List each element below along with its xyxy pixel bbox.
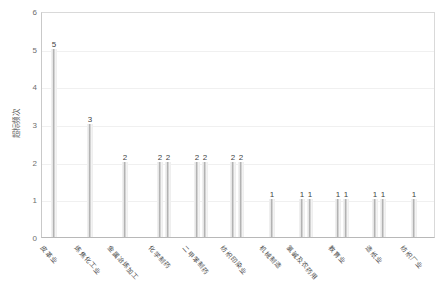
x-axis-label: 纺织厂业 bbox=[399, 243, 426, 271]
x-axis-label: 二甲苯制药 bbox=[181, 243, 213, 276]
x-axis-label: 氯碱及农药用 bbox=[285, 243, 321, 282]
x-axis-label: 皮革业 bbox=[39, 243, 61, 266]
bar-chart: 超标频次 0123456 53222222211111111 皮革业炼焦化工业金… bbox=[0, 0, 439, 296]
x-axis-label: 纺织印染业 bbox=[219, 243, 251, 276]
x-axis-label: 金属冶炼加工 bbox=[106, 243, 142, 282]
x-axis-labels: 皮革业炼焦化工业金属冶炼加工化学制药二甲苯制药纺织印染业机械制造氯碱及农药用教育… bbox=[0, 0, 439, 296]
x-axis-label: 教育业 bbox=[327, 243, 349, 266]
x-axis-label: 造纸业 bbox=[364, 243, 386, 266]
x-axis-label: 炼焦化工业 bbox=[73, 243, 105, 276]
x-axis-label: 机械制造 bbox=[258, 243, 285, 271]
x-axis-label: 化学制药 bbox=[147, 243, 174, 271]
